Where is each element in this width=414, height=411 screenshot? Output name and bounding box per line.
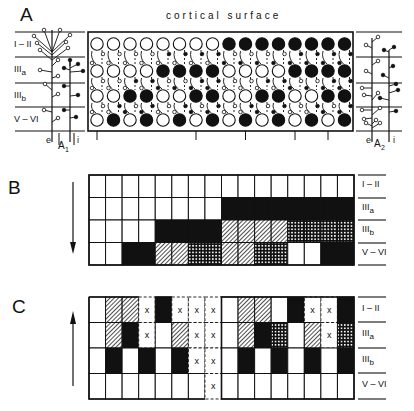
pyramidal-cell — [239, 90, 251, 102]
synapse-terminal — [222, 61, 226, 65]
terminal-filled — [392, 45, 396, 49]
pyramidal-cell — [206, 38, 218, 50]
terminal-open — [42, 108, 46, 112]
x-marker: x — [145, 305, 150, 315]
grid-cell — [122, 243, 139, 266]
synapse-terminal — [140, 110, 144, 114]
terminal-open — [56, 74, 60, 78]
pyramidal-cell — [256, 38, 268, 50]
pyramidal-cell — [140, 114, 152, 126]
grid-cell — [321, 220, 338, 243]
terminal-open — [64, 40, 68, 44]
x-marker: x — [211, 381, 216, 391]
grid-cell — [321, 198, 338, 221]
terminal-open — [58, 28, 62, 32]
grid-cell — [122, 348, 139, 374]
synapse-terminal — [338, 110, 342, 114]
grid-cell — [304, 198, 321, 221]
grid-cell — [337, 175, 354, 198]
grid-cell — [155, 243, 172, 266]
synapse-terminal — [332, 104, 336, 108]
pyramidal-cell — [91, 65, 103, 77]
synapse-terminal — [217, 79, 221, 83]
pyramidal-cell — [289, 90, 301, 102]
pyramidal-cell — [206, 90, 218, 102]
synapse-terminal — [167, 104, 171, 108]
grid-cell — [155, 323, 172, 349]
grid-cell — [106, 220, 123, 243]
grid-cell — [255, 348, 272, 374]
pyramidal-cell — [272, 90, 284, 102]
layer-label-b-1: IIIa — [362, 202, 374, 215]
panel-b — [70, 175, 386, 265]
grid-cell — [238, 323, 255, 349]
grid-cell — [172, 323, 189, 349]
x-marker: x — [194, 356, 199, 366]
synapse-terminal — [272, 61, 276, 65]
grid-cell — [271, 323, 288, 349]
synapse-terminal — [349, 52, 353, 56]
grid-cell — [288, 175, 305, 198]
pyramidal-cell — [272, 114, 284, 126]
synapse-terminal — [299, 79, 303, 83]
pyramidal-cell — [305, 90, 317, 102]
grid-cell — [271, 243, 288, 266]
grid-cell — [238, 220, 255, 243]
terminal-open — [360, 108, 364, 112]
pyramidal-cell — [157, 65, 169, 77]
synapse-terminal — [272, 86, 276, 90]
terminal-open — [364, 121, 368, 125]
grid-cell — [89, 198, 106, 221]
grid-cell — [304, 348, 321, 374]
neuron-label-a2: A — [374, 138, 381, 149]
grid-cell — [255, 198, 272, 221]
pyramidal-cell — [206, 65, 218, 77]
grid-cell — [155, 297, 172, 323]
branch-e — [40, 50, 52, 60]
synapse-terminal — [134, 79, 138, 83]
layer-label-a-3: V – VI — [14, 114, 39, 124]
synapse-terminal — [206, 61, 210, 65]
synapse-terminal — [233, 104, 237, 108]
synapse-terminal — [299, 104, 303, 108]
neuron-a2 — [360, 35, 400, 142]
grid-cell — [238, 348, 255, 374]
grid-cell — [238, 175, 255, 198]
pyramidal-cell — [305, 114, 317, 126]
grid-cell — [288, 297, 305, 323]
terminal-open — [378, 121, 382, 125]
axon-label-i: i — [77, 135, 79, 145]
grid-cell — [288, 198, 305, 221]
grid-cell — [172, 374, 189, 400]
synapse-terminal — [305, 61, 309, 65]
pyramidal-cell — [322, 38, 334, 50]
grid-cell — [222, 348, 239, 374]
grid-cell — [122, 175, 139, 198]
synapse-terminal — [140, 61, 144, 65]
grid-cell — [89, 175, 106, 198]
pyramidal-cell — [338, 65, 350, 77]
layer-label-b-2: IIIb — [362, 224, 374, 237]
panel-c: xxxxxxxxxxxxx — [70, 297, 386, 399]
grid-cell — [222, 323, 239, 349]
arrow-down-head-icon — [70, 242, 76, 254]
terminal-open — [364, 69, 368, 73]
grid-cell — [271, 348, 288, 374]
grid-cell — [106, 374, 123, 400]
terminal-open — [374, 118, 378, 122]
pyramidal-cell — [124, 65, 136, 77]
terminal-open — [364, 43, 368, 47]
terminal-filled — [382, 48, 386, 52]
grid-cell — [337, 220, 354, 243]
grid-cell — [255, 220, 272, 243]
neuron-label-a2-sub: 2 — [381, 144, 385, 151]
terminal-open — [56, 116, 60, 120]
pyramidal-cell — [239, 65, 251, 77]
synapse-terminal — [349, 104, 353, 108]
synapse-terminal — [151, 104, 155, 108]
cortical-surface-caption: cortical surface — [166, 10, 281, 21]
grid-cell — [271, 175, 288, 198]
synapse-terminal — [173, 86, 177, 90]
terminal-open — [68, 33, 72, 37]
grid-cell — [205, 198, 222, 221]
